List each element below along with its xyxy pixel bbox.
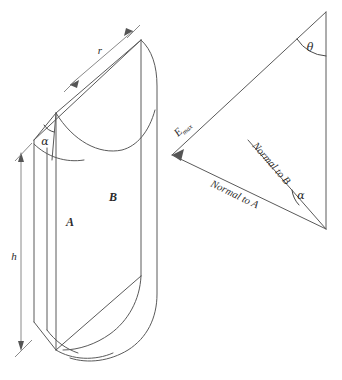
cylinder-alpha-label: α [41, 135, 49, 148]
figure-root: α A B r h [0, 0, 342, 380]
cylinder-bottom-cut-edge [56, 276, 141, 350]
cylinder-bottom-cut-arc [63, 276, 141, 350]
technical-diagram-svg: α A B r h [0, 0, 342, 380]
emax-label-subscript: max [180, 122, 195, 136]
cylinder-face-a-label: A [65, 215, 74, 229]
cylinder-bottom-left-facet [34, 322, 56, 350]
height-dimension: h [11, 143, 32, 357]
cylinder-alpha-line-lower [52, 113, 56, 160]
normal-to-b-label: Normal to B [250, 139, 293, 187]
cylinder-top-left-edge [34, 40, 141, 140]
triangle-emax-edge [172, 12, 326, 155]
cylinder-top-cut-arc [56, 110, 155, 151]
emax-arrowhead [172, 149, 184, 161]
radius-dimension: r [64, 25, 140, 92]
radius-label: r [98, 44, 103, 56]
height-label: h [11, 250, 17, 262]
cylinder-face-b-label: B [108, 190, 117, 204]
height-ext-top [15, 143, 32, 161]
vector-triangle-group: θ α E max Normal to A Normal to B [170, 12, 326, 229]
cylinder-wedge-group: α A B r h [11, 25, 157, 361]
cylinder-bottom-outer-arc [56, 350, 113, 358]
triangle-alpha-label: α [297, 189, 305, 202]
theta-label: θ [307, 41, 314, 54]
